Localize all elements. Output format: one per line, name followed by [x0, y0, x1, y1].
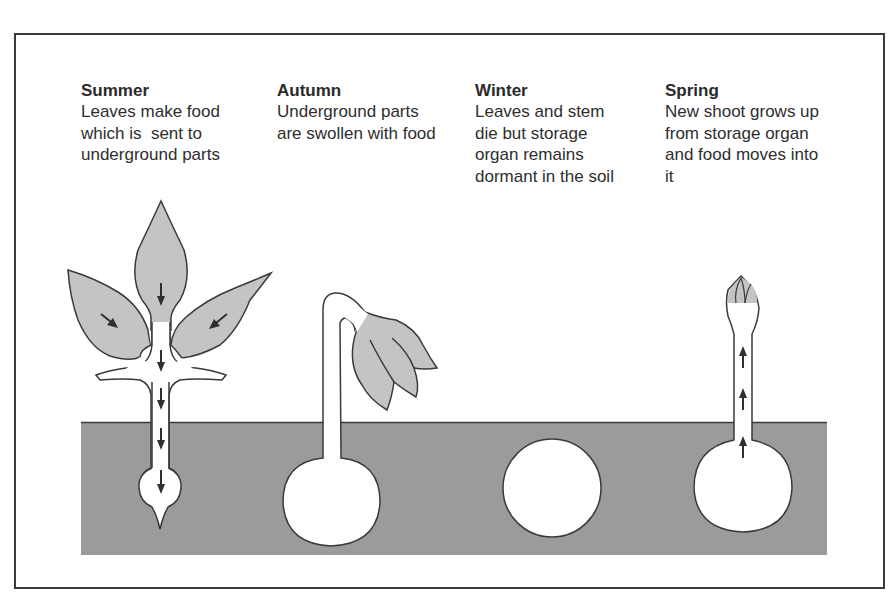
- spring-plant: [694, 276, 792, 532]
- winter-storage-organ: [503, 439, 601, 537]
- autumn-flower-head: [352, 312, 437, 410]
- summer-leaf-center: [135, 201, 187, 330]
- diagram-artwork: [0, 0, 890, 601]
